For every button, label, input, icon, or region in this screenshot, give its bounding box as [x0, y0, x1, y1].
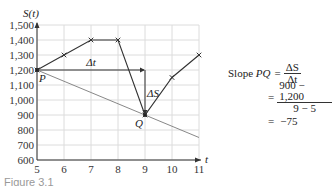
point-p-label: P [38, 72, 46, 84]
y-tick-label: 900 [18, 109, 35, 121]
equals-sign: = [274, 67, 280, 79]
y-tick-label: 1,500 [9, 19, 34, 31]
y-tick-label: 1,300 [9, 49, 34, 61]
slope-label: Slope PQ [228, 67, 270, 79]
y-tick-label: 1,400 [9, 34, 34, 46]
equals-sign: = [268, 115, 274, 127]
equals-sign: = [268, 91, 274, 103]
delta-t-label: Δt [85, 56, 96, 68]
x-tick-label: 6 [61, 163, 67, 175]
delta-s-label: ΔS [146, 87, 159, 99]
y-tick-label: 1,100 [9, 79, 34, 91]
y-tick-label: 600 [18, 154, 35, 166]
y-tick-label: 800 [18, 124, 35, 136]
numerator: ΔS [284, 62, 301, 74]
x-tick-label: 11 [194, 163, 205, 175]
y-tick-label: 700 [18, 139, 35, 151]
arrowhead-icon [140, 68, 145, 73]
tick-labels: 5678910116007008009001,0001,1001,2001,30… [9, 19, 204, 175]
y-tick-label: 1,200 [9, 64, 34, 76]
gridlines [37, 25, 199, 160]
x-tick-label: 10 [167, 163, 179, 175]
slope-equation: Slope PQ = ΔS Δt = 900 − 1,200 9 − 5 = −… [228, 62, 332, 132]
slope-result: −75 [280, 115, 297, 127]
point-q-label: Q [135, 117, 143, 129]
equation-line-2: = 900 − 1,200 9 − 5 [268, 84, 332, 110]
x-axis-arrow-icon [195, 158, 201, 163]
x-axis-label: t [205, 153, 209, 165]
x-tick-label: 5 [34, 163, 40, 175]
fraction-values: 900 − 1,200 9 − 5 [277, 80, 332, 114]
figure-caption: Figure 3.1 [4, 176, 54, 186]
denominator: 9 − 5 [291, 103, 318, 114]
annotations: ΔtΔSPQ [37, 56, 159, 129]
x-tick-label: 7 [88, 163, 94, 175]
axes: S(t)t [23, 7, 209, 165]
x-tick-label: 9 [142, 163, 148, 175]
x-tick-label: 8 [115, 163, 121, 175]
numerator: 900 − 1,200 [277, 80, 332, 103]
y-tick-label: 1,000 [9, 94, 34, 106]
